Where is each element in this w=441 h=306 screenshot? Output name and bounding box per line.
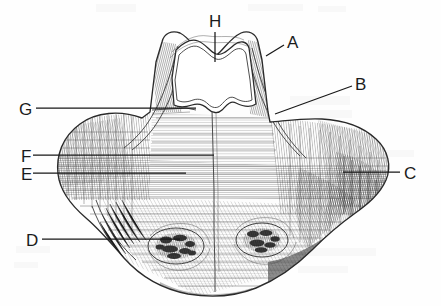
label-F: F: [21, 147, 31, 166]
label-D: D: [26, 231, 38, 250]
label-C: C: [404, 164, 416, 183]
figure-root: H A B G F E C D: [0, 0, 441, 306]
label-G: G: [19, 100, 32, 119]
label-B: B: [355, 75, 366, 94]
label-H: H: [209, 12, 221, 31]
label-E: E: [21, 165, 32, 184]
label-A: A: [287, 33, 299, 52]
anatomical-figure: H A B G F E C D: [0, 0, 441, 306]
